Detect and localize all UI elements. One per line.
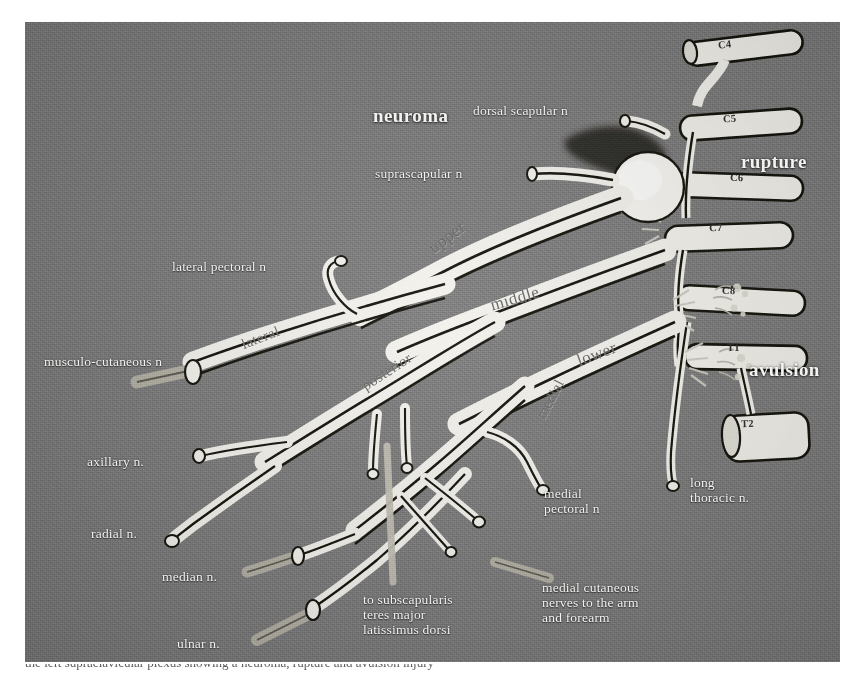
root-label-c6: C6 [730, 172, 744, 183]
label-lateral-pectoral-n: lateral pectoral n [172, 259, 266, 274]
medial-cutaneous-branches [401, 478, 549, 578]
label-axillary-n: axillary n. [87, 454, 144, 469]
diagram-plate: neuroma rupture avulsion dorsal scapular… [25, 22, 840, 662]
label-suprascapular-n: suprascapular n [375, 166, 462, 181]
nerve-graft-strand [387, 446, 393, 582]
label-ulnar-n: ulnar n. [177, 636, 220, 651]
root-label-t2: T2 [741, 418, 754, 430]
medial-pectoral-branch [487, 432, 541, 488]
root-label-c5: C5 [723, 113, 737, 125]
label-long-thoracic-n: long thoracic n. [690, 475, 749, 505]
root-label-c7: C7 [709, 222, 723, 233]
root-label-c8: C8 [722, 285, 736, 297]
label-radial-n: radial n. [91, 526, 137, 541]
root-label-c4: C4 [717, 38, 732, 51]
figure-caption-sliver: the left supraclavicular plexus showing … [25, 664, 840, 678]
label-medial-cutaneous-nerves: medial cutaneous nerves to the arm and f… [542, 580, 639, 625]
label-dorsal-scapular-n: dorsal scapular n [473, 103, 568, 118]
caption-text: the left supraclavicular plexus showing … [25, 664, 840, 671]
figure-page: neuroma rupture avulsion dorsal scapular… [0, 0, 865, 678]
label-medial-pectoral-n: medial pectoral n [544, 486, 600, 516]
root-label-t1: T1 [727, 342, 740, 353]
label-to-subscapularis: to subscapularis teres major latissimus … [363, 592, 453, 637]
label-median-n: median n. [162, 569, 217, 584]
label-neuroma: neuroma [373, 108, 448, 123]
root-stumps [665, 29, 811, 462]
label-avulsion: avulsion [749, 362, 820, 377]
label-musculo-cutaneous-n: musculo-cutaneous n [44, 354, 162, 369]
label-rupture: rupture [741, 154, 807, 169]
